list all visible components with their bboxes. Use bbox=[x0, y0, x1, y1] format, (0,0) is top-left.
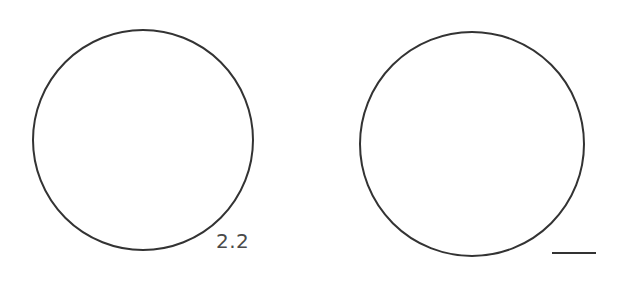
figure-drawing bbox=[0, 0, 623, 284]
figure-canvas: 2.2 bbox=[0, 0, 623, 284]
right-circle bbox=[360, 32, 584, 256]
left-circle bbox=[33, 30, 253, 250]
figure-label: 2.2 bbox=[216, 229, 249, 253]
